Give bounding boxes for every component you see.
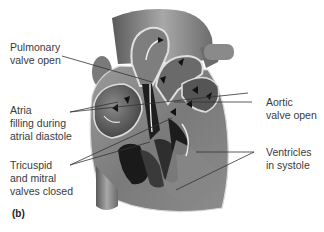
heart-cycle-diagram: Pulmonary valve open Atria filling durin… xyxy=(0,0,324,232)
label-atria-filling: Atria filling during atrial diastole xyxy=(10,104,72,143)
panel-label: (b) xyxy=(12,208,25,219)
label-ventricles-systole: Ventricles in systole xyxy=(266,146,312,172)
label-aortic-valve: Aortic valve open xyxy=(266,96,317,122)
label-tricuspid-mitral: Tricuspid and mitral valves closed xyxy=(10,159,73,198)
label-pulmonary-valve: Pulmonary valve open xyxy=(10,41,61,67)
